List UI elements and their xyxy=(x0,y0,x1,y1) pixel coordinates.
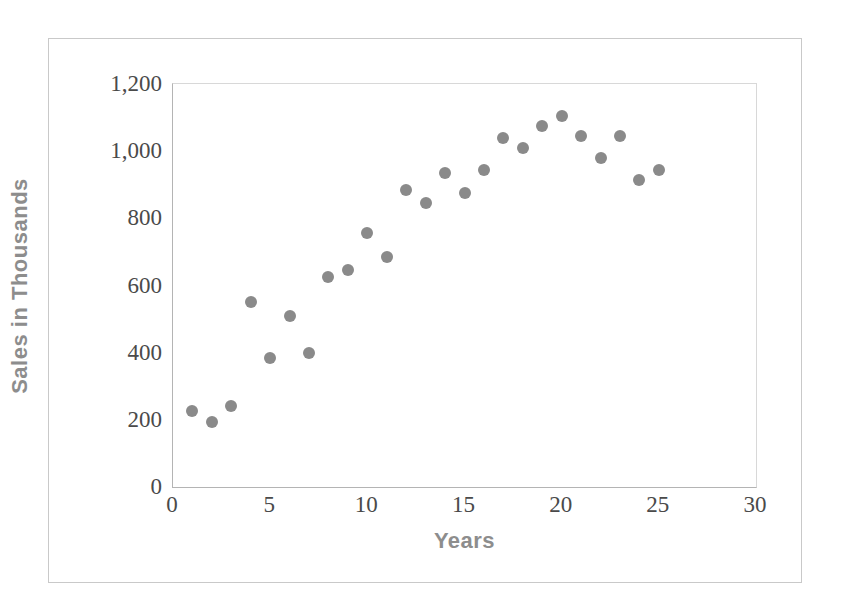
x-tick-label: 25 xyxy=(628,493,688,516)
y-tick-label: 1,200 xyxy=(72,72,162,95)
data-point xyxy=(225,400,237,412)
data-point xyxy=(186,405,198,417)
y-axis-title: Sales in Thousands xyxy=(7,178,33,394)
plot-area xyxy=(172,83,757,488)
y-tick-label: 400 xyxy=(72,340,162,363)
x-tick-label: 0 xyxy=(142,493,202,516)
y-axis-tick-labels: 02004006008001,0001,200 xyxy=(62,83,162,488)
data-point xyxy=(614,130,626,142)
data-point xyxy=(245,296,257,308)
data-point xyxy=(556,110,568,122)
chart-figure: Sales in Thousands 02004006008001,0001,2… xyxy=(0,0,852,616)
x-tick-label: 30 xyxy=(725,493,785,516)
data-point xyxy=(284,310,296,322)
data-point xyxy=(459,187,471,199)
data-point xyxy=(420,197,432,209)
data-point xyxy=(478,164,490,176)
data-point xyxy=(381,251,393,263)
data-point xyxy=(322,271,334,283)
data-point xyxy=(303,347,315,359)
data-point xyxy=(400,184,412,196)
data-point xyxy=(439,167,451,179)
x-tick-label: 5 xyxy=(239,493,299,516)
data-point xyxy=(633,174,645,186)
x-tick-label: 15 xyxy=(434,493,494,516)
x-tick-label: 10 xyxy=(336,493,396,516)
y-tick-label: 1,000 xyxy=(72,139,162,162)
x-tick-label: 20 xyxy=(531,493,591,516)
data-point xyxy=(653,164,665,176)
data-point xyxy=(575,130,587,142)
data-point xyxy=(595,152,607,164)
y-tick-label: 800 xyxy=(72,206,162,229)
y-axis-title-container: Sales in Thousands xyxy=(0,83,40,488)
x-axis-title: Years xyxy=(172,528,757,554)
data-point xyxy=(497,132,509,144)
x-axis-tick-labels: 051015202530 xyxy=(172,493,757,525)
data-point xyxy=(536,120,548,132)
data-point xyxy=(264,352,276,364)
y-tick-label: 200 xyxy=(72,407,162,430)
data-point xyxy=(206,416,218,428)
data-point xyxy=(361,227,373,239)
y-tick-label: 600 xyxy=(72,273,162,296)
data-point xyxy=(342,264,354,276)
data-point xyxy=(517,142,529,154)
